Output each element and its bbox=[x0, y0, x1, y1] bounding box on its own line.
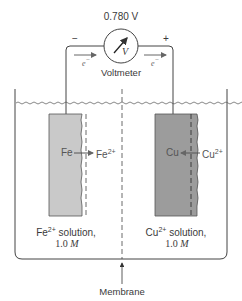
voltmeter-label: Voltmeter bbox=[101, 68, 141, 78]
voltmeter-circle bbox=[104, 29, 138, 63]
fe-electrode-label: Fe bbox=[61, 148, 73, 158]
cu-electrode-label: Cu bbox=[166, 148, 179, 158]
cu-electrode bbox=[155, 114, 198, 216]
fe-solution-label: Fe2+ solution, bbox=[36, 226, 96, 238]
electron-label-left: e− bbox=[82, 57, 90, 68]
solution-surface bbox=[16, 102, 242, 104]
positive-terminal: + bbox=[163, 34, 169, 44]
voltage-reading: 0.780 V bbox=[104, 12, 138, 22]
fe-concentration: 1.0 M bbox=[55, 239, 78, 249]
fe-ion-label: Fe2+ bbox=[96, 148, 116, 160]
voltmeter-symbol: V bbox=[122, 47, 128, 57]
membrane-label: Membrane bbox=[99, 287, 144, 297]
cu-ion-label: Cu2+ bbox=[202, 148, 223, 160]
cu-concentration: 1.0 M bbox=[165, 239, 188, 249]
cu-solution-label: Cu2+ solution, bbox=[146, 226, 207, 238]
electron-label-right: e− bbox=[151, 57, 159, 68]
fe-electrode bbox=[49, 114, 82, 216]
negative-terminal: − bbox=[72, 34, 78, 44]
